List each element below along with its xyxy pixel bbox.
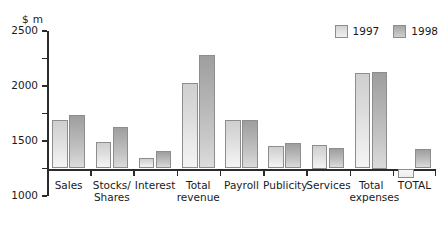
y-axis-tick: 1000 <box>42 113 47 115</box>
x-axis-tick <box>350 169 351 176</box>
y-axis-tick: 1500 <box>42 85 47 87</box>
category-label: Services <box>306 179 349 191</box>
x-axis-tick <box>220 169 221 176</box>
category-label: TOTAL <box>393 179 436 191</box>
x-axis-tick <box>90 169 91 176</box>
category-label: Payroll <box>220 179 263 191</box>
x-axis-tick <box>263 169 264 176</box>
x-axis-tick <box>177 169 178 176</box>
y-axis-tick: -500 <box>42 195 47 197</box>
bar-1997-stocks-shares[interactable] <box>96 142 112 169</box>
x-axis-zero-line <box>47 169 436 171</box>
bar-1998-total-revenue[interactable] <box>199 55 215 169</box>
bar-1998-total[interactable] <box>415 149 431 169</box>
bar-1998-sales[interactable] <box>69 115 85 168</box>
bar-1997-total-expenses[interactable] <box>355 73 371 169</box>
bar-chart: $ m 1997 1998 25002000150010005000-500 S… <box>0 0 448 243</box>
bar-1998-payroll[interactable] <box>242 120 258 169</box>
bar-1997-publicity[interactable] <box>268 146 284 169</box>
category-label: Sales <box>47 179 90 191</box>
bar-1997-services[interactable] <box>312 145 328 168</box>
y-axis-tick: 2000 <box>42 58 47 60</box>
category-label: Publicity <box>263 179 306 191</box>
plot-area: 25002000150010005000-500 SalesStocks/ Sh… <box>47 31 436 196</box>
y-axis-tick-label: 2000 <box>11 79 38 91</box>
y-axis-tick: 500 <box>42 140 47 142</box>
category-label: Total revenue <box>177 179 220 203</box>
x-axis-tick <box>133 169 134 176</box>
bar-1997-payroll[interactable] <box>225 120 241 168</box>
bar-1997-total[interactable] <box>398 169 414 179</box>
bar-1997-sales[interactable] <box>52 120 68 168</box>
x-axis-tick <box>393 169 394 176</box>
x-axis-tick <box>435 169 436 176</box>
x-axis-tick <box>47 169 48 176</box>
x-axis-tick <box>306 169 307 176</box>
y-axis-unit-label: $ m <box>22 13 43 25</box>
bar-1998-total-expenses[interactable] <box>372 72 388 168</box>
category-label: Stocks/ Shares <box>90 179 133 203</box>
bar-1997-interest[interactable] <box>139 158 155 168</box>
y-axis-tick-label: 2500 <box>11 24 38 36</box>
category-label: Interest <box>133 179 176 191</box>
y-axis-tick-label: 1000 <box>11 189 38 201</box>
bar-1998-stocks-shares[interactable] <box>113 127 129 169</box>
y-axis-tick: 2500 <box>42 30 47 32</box>
bar-1998-services[interactable] <box>329 148 345 169</box>
bar-1998-publicity[interactable] <box>285 143 301 168</box>
category-label: Total expenses <box>350 179 393 203</box>
bar-1997-total-revenue[interactable] <box>182 83 198 169</box>
y-axis-tick-label: 1500 <box>11 134 38 146</box>
bar-1998-interest[interactable] <box>156 151 172 169</box>
